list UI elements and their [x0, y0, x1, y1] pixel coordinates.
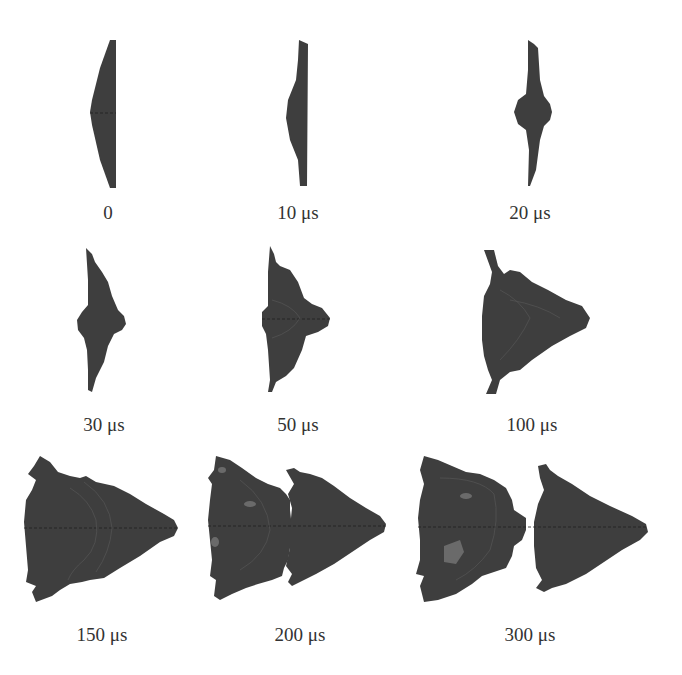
time-label-0: 0 [48, 202, 168, 224]
snapshot-t200 [208, 456, 386, 600]
snapshot-t0 [90, 40, 116, 188]
time-label-100us: 100 μs [472, 414, 592, 436]
snapshot-t20 [514, 40, 552, 186]
time-label-30us: 30 μs [44, 414, 164, 436]
time-label-10us: 10 μs [238, 202, 358, 224]
snapshot-t30 [77, 248, 126, 392]
snapshot-t10 [286, 40, 308, 186]
time-label-50us: 50 μs [238, 414, 358, 436]
time-label-200us: 200 μs [240, 624, 360, 646]
snapshot-t100 [482, 250, 590, 394]
time-label-150us: 150 μs [42, 624, 162, 646]
snapshot-graphics [0, 0, 682, 675]
deformation-sequence-figure: 0 10 μs 20 μs 30 μs 50 μs 100 μs 150 μs … [0, 0, 682, 675]
snapshot-t150 [24, 456, 178, 602]
time-label-20us: 20 μs [470, 202, 590, 224]
snapshot-t300 [416, 456, 648, 602]
time-label-300us: 300 μs [470, 624, 590, 646]
snapshot-t50 [262, 246, 330, 392]
